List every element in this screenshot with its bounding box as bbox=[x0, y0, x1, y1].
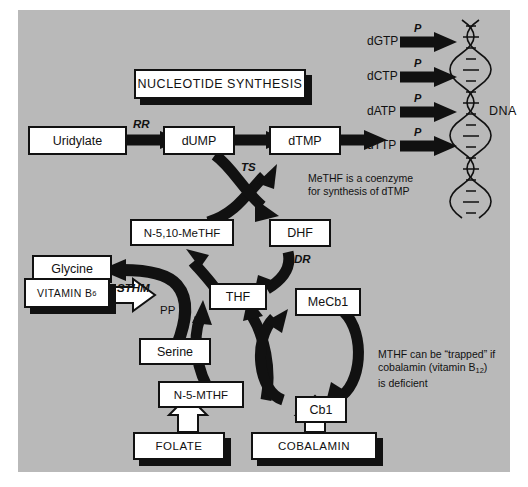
cobalamin-label: COBALAMIN bbox=[251, 432, 377, 460]
label-dgtp: dGTP bbox=[367, 34, 398, 48]
enzyme-label-pp: PP bbox=[160, 304, 175, 316]
node-dump[interactable]: dUMP bbox=[163, 126, 235, 155]
label-dttp: dTTP bbox=[367, 138, 396, 152]
caption-trapped-line1: MTHF can be “trapped” if bbox=[378, 348, 495, 361]
enzyme-label-sthm: STHM bbox=[117, 282, 150, 294]
node-cobalamin[interactable]: COBALAMIN bbox=[251, 432, 377, 460]
phosphate-label-datp: P bbox=[414, 92, 421, 104]
node-vitamin-b6[interactable]: VITAMIN B6 bbox=[24, 278, 110, 308]
folate-label: FOLATE bbox=[133, 432, 225, 460]
label-datp: dATP bbox=[367, 104, 396, 118]
caption-methf-line1: MeTHF is a coenzyme bbox=[308, 172, 413, 185]
node-thf[interactable]: THF bbox=[209, 283, 267, 310]
node-n-5-10-methf[interactable]: N-5,10-MeTHF bbox=[130, 219, 234, 246]
nucleotide-synthesis-banner: NUCLEOTIDE SYNTHESIS bbox=[134, 69, 306, 99]
enzyme-label-ts: TS bbox=[241, 161, 256, 173]
enzyme-label-dr: DR bbox=[294, 253, 311, 265]
caption-methf-line2: for synthesis of dTMP bbox=[308, 185, 413, 198]
node-dhf[interactable]: DHF bbox=[269, 219, 331, 247]
caption-trapped-line2: cobalamin (vitamin B12) bbox=[378, 361, 495, 377]
caption-trapped-line2-post: ) bbox=[484, 361, 488, 373]
caption-trapped-line2-pre: cobalamin (vitamin B bbox=[378, 361, 475, 373]
node-uridylate[interactable]: Uridylate bbox=[28, 126, 127, 155]
node-n-5-mthf[interactable]: N-5-MTHF bbox=[158, 381, 244, 408]
node-folate[interactable]: FOLATE bbox=[133, 432, 225, 460]
phosphate-label-dttp: P bbox=[414, 126, 421, 138]
node-mecb1[interactable]: MeCb1 bbox=[295, 288, 361, 316]
diagram-canvas: NUCLEOTIDE SYNTHESIS Uridylate dUMP dTMP… bbox=[0, 0, 528, 487]
vitamin-b6-subscript: 6 bbox=[92, 289, 97, 298]
caption-trapped-subscript: 12 bbox=[475, 365, 483, 374]
enzyme-label-rr: RR bbox=[133, 118, 150, 130]
phosphate-label-dctp: P bbox=[414, 57, 421, 69]
phosphate-label-dgtp: P bbox=[414, 22, 421, 34]
caption-trapped-line3: is deficient bbox=[378, 377, 495, 390]
banner-label: NUCLEOTIDE SYNTHESIS bbox=[134, 69, 306, 99]
label-dna: DNA bbox=[489, 104, 517, 118]
label-dctp: dCTP bbox=[367, 69, 398, 83]
node-dtmp[interactable]: dTMP bbox=[269, 126, 341, 155]
caption-trapped: MTHF can be “trapped” if cobalamin (vita… bbox=[378, 348, 495, 389]
caption-methf: MeTHF is a coenzyme for synthesis of dTM… bbox=[308, 172, 413, 197]
node-serine[interactable]: Serine bbox=[139, 338, 211, 365]
vitamin-b6-label: VITAMIN B6 bbox=[24, 278, 110, 308]
vitamin-b6-text: VITAMIN B bbox=[37, 287, 92, 299]
node-cb1[interactable]: Cb1 bbox=[295, 396, 347, 423]
